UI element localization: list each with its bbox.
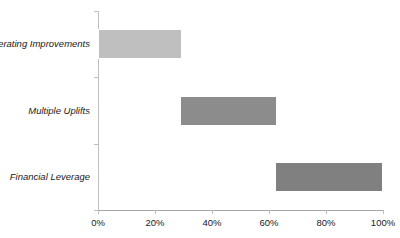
value-tick-2 bbox=[212, 210, 213, 214]
category-label-3: Financial Leverage bbox=[0, 171, 90, 183]
value-tick-label-4: 80% bbox=[304, 217, 348, 228]
value-tick-label-5: 100% bbox=[361, 217, 400, 228]
value-tick-label-1: 20% bbox=[133, 217, 177, 228]
category-tick-2 bbox=[94, 144, 98, 145]
value-tick-1 bbox=[155, 210, 156, 214]
category-tick-1 bbox=[94, 77, 98, 78]
value-tick-0 bbox=[98, 210, 99, 214]
value-axis-line bbox=[98, 210, 383, 211]
bar-3 bbox=[275, 162, 383, 192]
category-tick-top bbox=[94, 11, 98, 12]
chart-title: Contribution to Returns bbox=[96, 0, 356, 1]
value-tick-4 bbox=[326, 210, 327, 214]
category-label-1: Operating Improvements bbox=[0, 38, 90, 50]
value-tick-5 bbox=[383, 210, 384, 214]
value-tick-label-3: 60% bbox=[247, 217, 291, 228]
bar-2 bbox=[180, 96, 276, 126]
category-label-2: Multiple Uplifts bbox=[0, 105, 90, 117]
bar-1 bbox=[98, 29, 182, 59]
value-tick-label-0: 0% bbox=[76, 217, 120, 228]
cascade-bar-chart: Contribution to Returns Operating Improv… bbox=[0, 0, 400, 238]
value-tick-label-2: 40% bbox=[190, 217, 234, 228]
value-tick-3 bbox=[269, 210, 270, 214]
